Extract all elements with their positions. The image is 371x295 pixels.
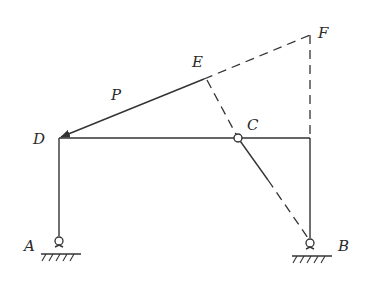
label-p: P (110, 86, 122, 104)
pin-support-a (41, 237, 81, 261)
label-e: E (191, 53, 203, 71)
label-d: D (32, 130, 45, 148)
label-f: F (317, 24, 329, 42)
dashed-line-c-b (268, 180, 308, 238)
frame-diagram: D P E F C A B (0, 0, 371, 295)
pin-support-b (292, 239, 332, 263)
label-c: C (247, 116, 259, 134)
line-c-b (238, 138, 268, 180)
label-b: B (337, 237, 349, 255)
dashed-line-ef (204, 35, 310, 79)
label-a: A (22, 237, 35, 255)
force-p-arrow (61, 79, 204, 137)
hinge-c (234, 134, 242, 142)
line-e-c (207, 80, 238, 138)
